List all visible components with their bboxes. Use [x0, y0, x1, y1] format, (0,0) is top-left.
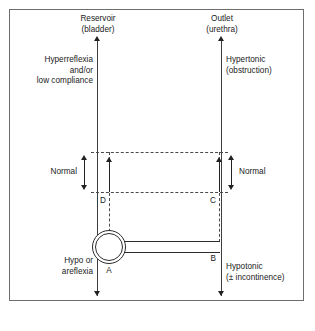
- left-normal-label: Normal: [33, 167, 77, 178]
- hypertonic-obstruction-label: Hypertonic (obstruction): [226, 55, 304, 76]
- hyperreflexia-label: Hyperreflexia and/or low compliance: [14, 55, 93, 87]
- point-b-label: B: [196, 254, 216, 265]
- normal-range-lower-dashed-line: [91, 192, 228, 193]
- left-axis-down-arrowhead: [94, 291, 100, 296]
- right-normal-range-double-arrow: [228, 155, 235, 190]
- right-axis-down-arrowhead: [218, 291, 224, 296]
- point-c-inner-up-arrow: [216, 157, 223, 192]
- point-d-inner-up-arrow: [106, 157, 113, 192]
- point-c-label: C: [198, 196, 216, 207]
- hypotonic-incontinence-label: Hypotonic (± incontinence): [226, 262, 306, 283]
- left-normal-range-double-arrow: [81, 155, 88, 190]
- normal-range-upper-dashed-line: [91, 152, 228, 153]
- right-normal-label: Normal: [239, 167, 283, 178]
- point-a-label: A: [99, 266, 119, 277]
- point-d-label: D: [88, 196, 106, 207]
- urodynamics-quadrant-diagram: Reservoir (bladder) Outlet (urethra) Hyp…: [0, 0, 315, 331]
- hypo-areflexia-label: Hypo or areflexia: [14, 256, 93, 277]
- reservoir-bladder-heading: Reservoir (bladder): [48, 14, 148, 35]
- balloon-inner-ring: [95, 233, 123, 261]
- outlet-urethra-heading: Outlet (urethra): [172, 14, 272, 35]
